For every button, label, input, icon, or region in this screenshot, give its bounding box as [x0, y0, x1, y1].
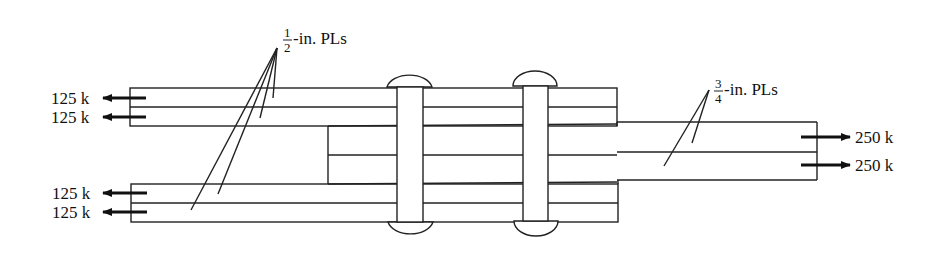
load-label: 250 k	[855, 128, 894, 147]
svg-text:-in. PLs: -in. PLs	[724, 80, 778, 99]
svg-text:3: 3	[715, 76, 722, 91]
svg-text:4: 4	[715, 91, 722, 106]
svg-text:2: 2	[284, 40, 291, 55]
svg-text:-in. PLs: -in. PLs	[293, 29, 347, 48]
svg-text:1: 1	[284, 25, 291, 40]
right-load-arrows	[801, 137, 850, 165]
load-label: 250 k	[855, 156, 894, 175]
left-load-labels: 125 k 125 k 125 k 125 k	[51, 89, 91, 222]
load-label: 125 k	[52, 184, 91, 203]
load-label: 125 k	[51, 108, 90, 127]
load-label: 125 k	[51, 89, 90, 108]
load-label: 125 k	[52, 203, 91, 222]
filler-plates	[328, 126, 617, 184]
splice-joint-diagram: 125 k 125 k 125 k 125 k 250 k 250 k 1 2 …	[0, 0, 946, 256]
right-load-labels: 250 k 250 k	[855, 128, 894, 175]
